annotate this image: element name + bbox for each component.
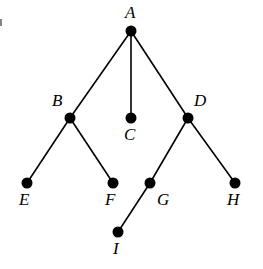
edge-b-f	[70, 118, 113, 183]
vertex-e	[22, 178, 33, 189]
vertex-h	[230, 178, 241, 189]
edge-b-e	[27, 118, 70, 183]
vertex-label-a: A	[125, 4, 135, 21]
vertex-b	[65, 113, 76, 124]
vertex-a	[126, 26, 137, 37]
vertex-label-i: I	[113, 240, 119, 257]
vertex-g	[145, 178, 156, 189]
vertex-label-g: G	[157, 191, 169, 208]
vertex-label-h: H	[227, 191, 239, 208]
vertex-d	[183, 113, 194, 124]
edge-a-b	[70, 31, 131, 118]
edge-d-h	[188, 118, 235, 183]
vertex-label-b: B	[52, 92, 62, 109]
edge-artifact-mark	[0, 19, 2, 26]
edge-g-i	[118, 183, 150, 232]
edge-a-d	[131, 31, 188, 118]
vertex-c	[126, 113, 137, 124]
vertex-label-c: C	[124, 126, 135, 143]
vertex-label-e: E	[19, 191, 29, 208]
vertex-label-d: D	[194, 92, 206, 109]
vertex-i	[113, 227, 124, 238]
graph-diagram: ABCDEFGHI	[0, 0, 263, 269]
edge-d-g	[150, 118, 188, 183]
vertex-f	[108, 178, 119, 189]
vertex-label-f: F	[105, 191, 115, 208]
